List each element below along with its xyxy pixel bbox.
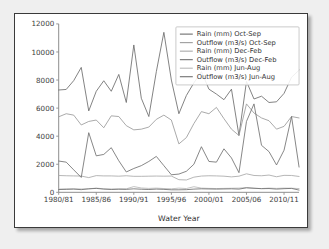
x-tick-label: 1990/91 [119, 195, 149, 204]
x-tick-label: 1995/96 [157, 195, 187, 204]
figure-frame: 020004000600080001000012000 1980/811985/… [14, 13, 308, 228]
x-tick-label: 2005/06 [232, 195, 262, 204]
legend-entry-label: Outflow (m3/s) Dec-Feb [197, 56, 277, 64]
x-tick-label: 1985/86 [81, 195, 111, 204]
y-tick-label: 2000 [36, 160, 55, 169]
x-tick-labels: 1980/811985/861990/911995/962000/012005/… [44, 195, 299, 204]
y-tick-label: 8000 [36, 76, 55, 85]
line-chart: 020004000600080001000012000 1980/811985/… [15, 14, 307, 227]
legend-entry-label: Outflow (m3/s) Oct-Sep [197, 39, 276, 47]
legend-entry-label: Rain (mm) Jun-Aug [197, 64, 261, 72]
x-axis-title: Water Year [158, 214, 200, 223]
legend: Rain (mm) Oct-SepOutflow (m3/s) Oct-SepR… [176, 27, 299, 85]
legend-entry-label: Rain (mm) Dec-Feb [197, 47, 262, 55]
legend-entry-label: Outflow (m3/s) Jun-Aug [197, 73, 275, 81]
x-tick-label: 2000/01 [194, 195, 224, 204]
legend-entry-label: Rain (mm) Oct-Sep [197, 30, 261, 38]
y-tick-label: 10000 [32, 48, 55, 57]
y-tick-label: 12000 [32, 19, 55, 28]
y-tick-label: 4000 [36, 132, 55, 141]
y-tick-label: 6000 [36, 104, 55, 113]
x-tick-label: 2010/11 [269, 195, 299, 204]
x-tick-label: 1980/81 [44, 195, 74, 204]
